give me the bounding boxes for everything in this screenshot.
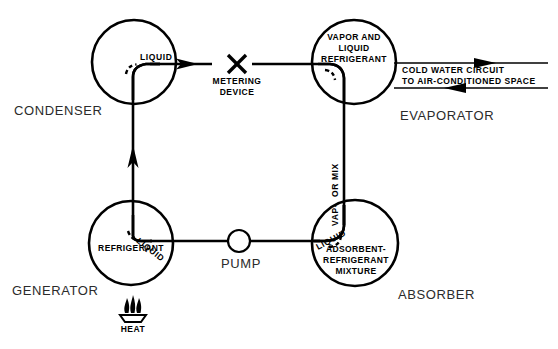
- absorber-label: ABSORBER: [398, 287, 475, 302]
- metering-device-label-line2: DEVICE: [220, 87, 255, 97]
- absorber-riser-label-part-2: VAP-: [330, 204, 340, 226]
- heat-source-symbol: [120, 295, 146, 322]
- absorption-cycle-diagram: CONDENSER EVAPORATOR GENERATOR ABSORBER …: [0, 0, 558, 349]
- metering-device-symbol[interactable]: [228, 55, 246, 73]
- cycle-schematic-svg: CONDENSER EVAPORATOR GENERATOR ABSORBER …: [0, 0, 558, 349]
- absorber-riser-label-part-3: OR MIX: [330, 163, 340, 197]
- condenser-label: CONDENSER: [14, 103, 102, 118]
- cold-water-circuit-line-1: COLD WATER CIRCUIT: [402, 65, 505, 75]
- evaporator-inner-line-3: REFRIGERANT: [321, 54, 387, 64]
- metering-device-label-line1: METERING: [213, 76, 262, 86]
- heat-label: HEAT: [121, 324, 146, 334]
- dashed-arc-evaporator: [325, 70, 335, 80]
- absorber-inner-line-1: ADSORBENT-: [326, 244, 386, 254]
- generator-label: GENERATOR: [12, 283, 99, 298]
- evaporator-inner-line-2: LIQUID: [338, 43, 369, 53]
- flame-icon-left: [124, 298, 129, 313]
- absorber-inner-line-2: REFRIGERANT: [323, 255, 389, 265]
- evaporator-label: EVAPORATOR: [400, 108, 494, 123]
- pipe-condenser-internal-overlay: [133, 64, 160, 100]
- pipe-evaporator-internal-elbow: [316, 64, 344, 105]
- burner-icon: [120, 315, 146, 322]
- cold-water-circuit-line-2: TO AIR-CONDITIONED SPACE: [402, 76, 536, 86]
- absorber-inner-line-3: MIXTURE: [335, 266, 376, 276]
- flame-icon-right: [136, 298, 141, 313]
- pump-label: PUMP: [221, 256, 261, 271]
- flame-icon-center: [130, 295, 135, 313]
- condenser-outlet-label: LIQUID: [140, 52, 172, 62]
- pump-symbol[interactable]: [228, 230, 250, 252]
- evaporator-inner-line-1: VAPOR AND: [327, 32, 381, 42]
